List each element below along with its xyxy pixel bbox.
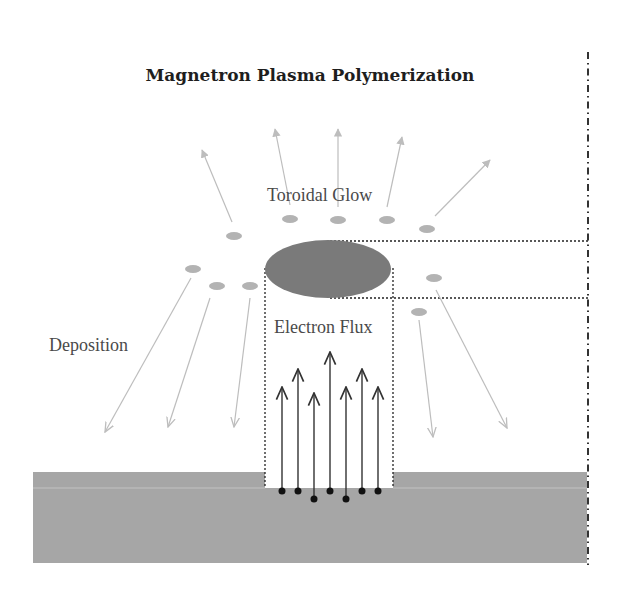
particle	[209, 282, 225, 290]
toroidal-glow-label: Toroidal Glow	[267, 185, 372, 205]
electron-dot	[359, 488, 366, 495]
electron-dot	[375, 488, 382, 495]
electron-dot	[279, 488, 286, 495]
diagram-title: Magnetron Plasma Polymerization	[146, 65, 475, 85]
particle	[242, 282, 258, 290]
electron-flux-label: Electron Flux	[274, 317, 372, 337]
toroidal-glow-ellipse	[265, 240, 391, 298]
particle	[379, 216, 395, 224]
particle	[419, 225, 435, 233]
particle	[282, 215, 298, 223]
particle	[411, 308, 427, 316]
magnetron-diagram: Magnetron Plasma Polymerization	[0, 0, 627, 595]
deposition-arrow-icon	[419, 320, 433, 437]
electron-dot	[343, 496, 350, 503]
deposition-arrow-icon	[105, 278, 191, 432]
substrate	[33, 472, 587, 563]
particle	[330, 216, 346, 224]
electron-flux-arrows	[279, 352, 382, 503]
electron-dot	[311, 496, 318, 503]
deposition-arrow-icon	[234, 298, 250, 427]
emission-arrow-icon	[435, 160, 490, 216]
deposition-label: Deposition	[49, 335, 128, 355]
deposition-arrow-icon	[168, 298, 210, 427]
electron-dot	[295, 488, 302, 495]
particle	[226, 232, 242, 240]
emission-arrow-icon	[202, 150, 232, 222]
electron-dot	[327, 488, 334, 495]
deposition-arrow-icon	[436, 290, 507, 428]
particle	[426, 274, 442, 282]
deposition-arrows	[105, 278, 507, 437]
particle	[185, 265, 201, 273]
emission-arrows	[202, 129, 490, 222]
emission-arrow-icon	[387, 137, 402, 207]
